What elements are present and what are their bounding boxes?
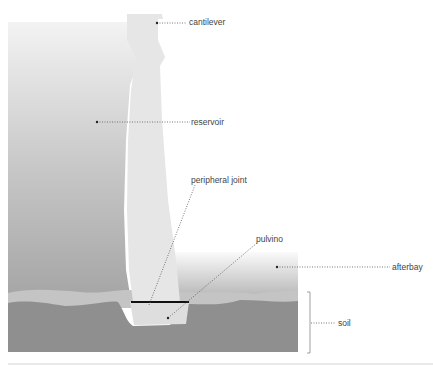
label-soil: soil: [338, 319, 351, 328]
label-reservoir: reservoir: [191, 118, 224, 127]
dot-afterbay: [276, 266, 278, 268]
reservoir-water: [8, 22, 140, 295]
label-afterbay: afterbay: [392, 263, 423, 272]
label-pulvino: pulvino: [256, 235, 283, 244]
dam-diagram: [0, 0, 433, 370]
dot-cantilever: [156, 22, 158, 24]
dot-reservoir: [96, 121, 98, 123]
label-peripheral-joint: peripheral joint: [191, 176, 247, 185]
soil-bracket: [307, 292, 310, 353]
pulvino: [130, 302, 189, 325]
label-cantilever: cantilever: [189, 18, 225, 27]
dot-pulvino: [167, 317, 169, 319]
